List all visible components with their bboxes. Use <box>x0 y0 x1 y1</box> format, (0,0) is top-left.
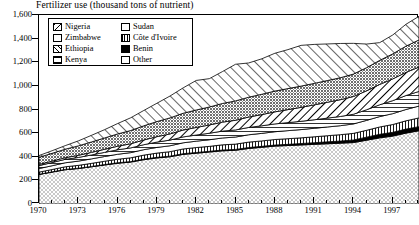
x-axis-tick-mark <box>156 197 157 202</box>
y-axis-tick-label: 1,400 <box>13 33 32 42</box>
legend-swatch-light-stipple-icon <box>121 56 130 64</box>
chart-legend: NigeriaZimbabweEthiopiaKenya SudanCôte d… <box>48 18 193 66</box>
x-axis-minor-tick <box>261 200 262 203</box>
x-axis-minor-tick <box>169 200 170 203</box>
x-axis-minor-tick <box>405 200 406 203</box>
legend-swatch-dark-stipple-icon <box>53 34 62 42</box>
legend-swatch-vertical-lines-icon <box>121 34 130 42</box>
legend-swatch-horizontal-lines-icon <box>53 56 62 64</box>
legend-label: Sudan <box>133 22 154 31</box>
x-axis-tick-mark <box>235 197 236 202</box>
y-axis-tick-label: 1,000 <box>13 81 32 90</box>
y-axis-tick-label: 400 <box>19 151 32 160</box>
y-axis: 02004006008001,0001,2001,4001,600 <box>0 14 38 203</box>
x-axis-tick-mark <box>392 197 393 202</box>
legend-swatch-blank-white-icon <box>121 23 130 31</box>
legend-swatch-diagonal-backslash-icon <box>53 23 62 31</box>
x-axis-minor-tick <box>326 200 327 203</box>
x-axis-minor-tick <box>379 200 380 203</box>
x-axis-tick-label: 1991 <box>305 206 322 215</box>
chart-title: Fertilizer use (thousand tons of nutrien… <box>36 0 194 10</box>
y-axis-tick-label: 1,200 <box>13 57 32 66</box>
x-axis-minor-tick <box>64 200 65 203</box>
x-axis-tick-mark <box>77 197 78 202</box>
legend-label: Kenya <box>65 55 87 64</box>
legend-item: Zimbabwe <box>53 32 101 43</box>
legend-column-left: NigeriaZimbabweEthiopiaKenya <box>53 21 101 65</box>
x-axis-tick-label: 1994 <box>344 206 361 215</box>
legend-item: Benin <box>121 43 177 54</box>
legend-item: Kenya <box>53 54 101 65</box>
legend-item: Côte d'Ivoire <box>121 32 177 43</box>
x-axis-minor-tick <box>248 200 249 203</box>
x-axis-tick-mark <box>195 197 196 202</box>
y-axis-tick-label: 600 <box>19 128 32 137</box>
x-axis-tick-label: 1976 <box>108 206 125 215</box>
chart-page: Fertilizer use (thousand tons of nutrien… <box>0 0 419 225</box>
legend-item: Nigeria <box>53 21 101 32</box>
x-axis-tick-label: 1988 <box>265 206 282 215</box>
legend-swatch-solid-black-icon <box>121 45 130 53</box>
x-axis-tick-label: 1997 <box>383 206 400 215</box>
x-axis-minor-tick <box>339 200 340 203</box>
legend-item: Sudan <box>121 21 177 32</box>
x-axis-tick-mark <box>313 197 314 202</box>
x-axis-tick-label: 1973 <box>69 206 86 215</box>
x-axis-tick-label: 1970 <box>29 206 46 215</box>
x-axis-tick-mark <box>117 197 118 202</box>
legend-label: Zimbabwe <box>65 33 101 42</box>
x-axis: 1970197319761979198219851988199119941997 <box>38 203 418 225</box>
legend-label: Other <box>133 55 152 64</box>
x-axis-minor-tick <box>51 200 52 203</box>
x-axis-minor-tick <box>182 200 183 203</box>
x-axis-minor-tick <box>287 200 288 203</box>
legend-item: Other <box>121 54 177 65</box>
x-axis-minor-tick <box>143 200 144 203</box>
x-axis-minor-tick <box>208 200 209 203</box>
x-axis-tick-label: 1985 <box>226 206 243 215</box>
legend-label: Côte d'Ivoire <box>133 33 177 42</box>
x-axis-tick-mark <box>352 197 353 202</box>
x-axis-minor-tick <box>300 200 301 203</box>
x-axis-tick-mark <box>274 197 275 202</box>
y-axis-tick-label: 200 <box>19 175 32 184</box>
y-axis-tick-label: 800 <box>19 104 32 113</box>
x-axis-tick-label: 1979 <box>147 206 164 215</box>
x-axis-tick-mark <box>38 197 39 202</box>
x-axis-tick-label: 1982 <box>187 206 204 215</box>
x-axis-minor-tick <box>417 200 418 203</box>
x-axis-minor-tick <box>221 200 222 203</box>
legend-label: Benin <box>133 44 153 53</box>
legend-label: Ethiopia <box>65 44 93 53</box>
y-axis-tick-label: 1,600 <box>13 10 32 19</box>
legend-column-right: SudanCôte d'IvoireBeninOther <box>121 21 177 65</box>
x-axis-minor-tick <box>130 200 131 203</box>
legend-label: Nigeria <box>65 22 90 31</box>
legend-item: Ethiopia <box>53 43 101 54</box>
x-axis-minor-tick <box>90 200 91 203</box>
x-axis-minor-tick <box>366 200 367 203</box>
x-axis-minor-tick <box>104 200 105 203</box>
legend-swatch-diagonal-slash-icon <box>53 45 62 53</box>
